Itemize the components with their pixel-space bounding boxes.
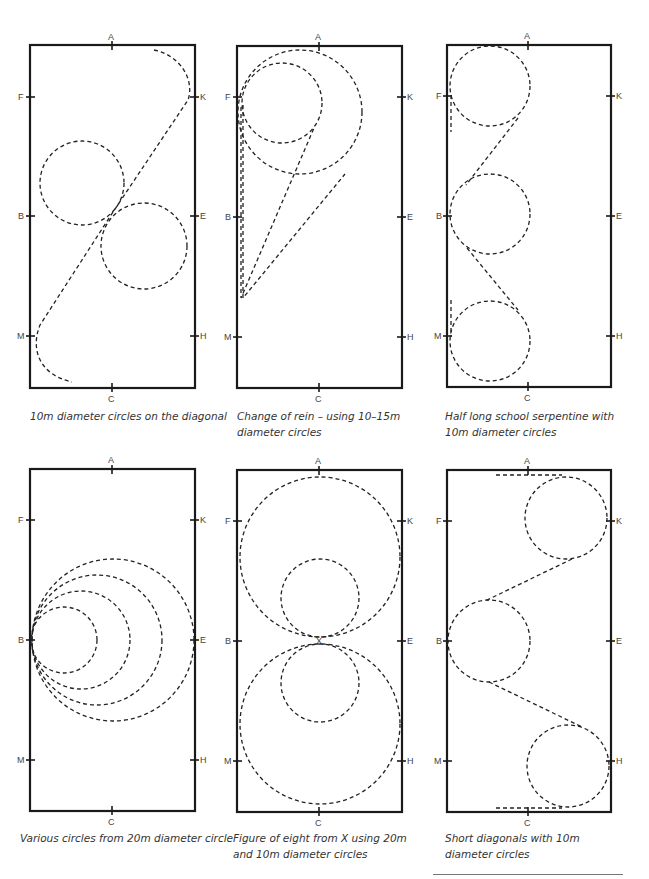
caption-half-serpentine: Half long school serpentine with 10m dia…	[445, 408, 625, 440]
footer-rule	[433, 874, 623, 875]
arena-various-circles: A C F B M K E H	[17, 455, 207, 827]
marker-c: C	[315, 394, 322, 404]
marker-a: A	[315, 456, 321, 466]
marker-b: B	[225, 636, 231, 646]
marker-e: E	[407, 212, 413, 222]
riding-path	[36, 50, 189, 382]
circle-10m	[525, 477, 607, 559]
caption-figure-of-eight: Figure of eight from X using 20m and 10m…	[233, 830, 423, 862]
circle-10m	[242, 63, 322, 143]
marker-f: F	[436, 516, 442, 526]
marker-b: B	[436, 636, 442, 646]
marker-h: H	[616, 756, 623, 766]
arena-diagonal-circles: A C F B M K E H	[17, 32, 207, 404]
circle-10m	[448, 600, 530, 682]
marker-c: C	[108, 817, 115, 827]
marker-f: F	[225, 516, 231, 526]
marker-a: A	[315, 32, 321, 42]
marker-h: H	[407, 756, 414, 766]
arena-outline	[447, 470, 611, 812]
marker-a: A	[108, 32, 114, 42]
marker-e: E	[616, 211, 622, 221]
arena-outline	[237, 46, 402, 388]
circle-20m-top	[240, 477, 400, 637]
circle-10m-bottom	[281, 644, 359, 722]
marker-m: M	[434, 331, 442, 341]
arena-change-of-rein: A C F B M K E H	[224, 32, 414, 404]
riding-path	[243, 105, 345, 298]
marker-b: B	[225, 212, 231, 222]
marker-h: H	[200, 331, 207, 341]
marker-k: K	[407, 516, 413, 526]
riding-path	[485, 559, 572, 601]
marker-m: M	[17, 331, 25, 341]
circle-15m	[238, 50, 362, 174]
riding-path	[489, 682, 582, 727]
marker-c: C	[524, 393, 531, 403]
marker-h: H	[616, 331, 623, 341]
circle-10m	[40, 141, 124, 225]
marker-a: A	[108, 455, 114, 465]
marker-k: K	[616, 516, 622, 526]
caption-various-circles: Various circles from 20m diameter circle	[20, 830, 235, 846]
marker-f: F	[18, 515, 24, 525]
marker-c: C	[108, 394, 115, 404]
marker-m: M	[224, 332, 232, 342]
marker-k: K	[200, 515, 206, 525]
circle-10m	[527, 725, 609, 807]
marker-e: E	[200, 211, 206, 221]
marker-f: F	[225, 92, 231, 102]
arena-short-diagonals: A C F B M K E H	[434, 456, 623, 828]
marker-h: H	[200, 755, 207, 765]
marker-h: H	[407, 332, 414, 342]
circle-small	[31, 607, 97, 673]
circle-medium	[32, 591, 130, 689]
circle-10m	[450, 46, 530, 126]
circle-10m-top	[281, 559, 359, 637]
marker-f: F	[436, 91, 442, 101]
circle-10m	[450, 301, 530, 381]
arena-outline	[30, 469, 195, 811]
marker-e: E	[407, 636, 413, 646]
marker-a: A	[524, 31, 530, 41]
marker-c: C	[315, 818, 322, 828]
caption-short-diagonals: Short diagonals with 10m diameter circle…	[445, 830, 615, 862]
marker-k: K	[616, 91, 622, 101]
marker-k: K	[200, 92, 206, 102]
marker-m: M	[224, 756, 232, 766]
arena-outline	[30, 45, 195, 388]
caption-diagonal-circles: 10m diameter circles on the diagonal	[30, 408, 230, 424]
marker-k: K	[407, 92, 413, 102]
marker-b: B	[436, 211, 442, 221]
arena-figure-of-eight: A C F B M K E H X	[224, 456, 414, 828]
arena-half-serpentine: A C F B M K E H	[434, 31, 623, 403]
circle-20m	[32, 559, 194, 721]
riding-path	[466, 118, 518, 185]
marker-a: A	[524, 456, 530, 466]
marker-c: C	[524, 818, 531, 828]
circle-20m-bottom	[240, 644, 400, 804]
marker-m: M	[434, 756, 442, 766]
caption-change-of-rein: Change of rein – using 10–15m diameter c…	[237, 408, 417, 440]
circle-10m	[101, 203, 187, 289]
circle-10m	[450, 174, 530, 254]
marker-b: B	[18, 211, 24, 221]
marker-f: F	[18, 92, 24, 102]
marker-e: E	[616, 636, 622, 646]
marker-b: B	[18, 635, 24, 645]
marker-e: E	[200, 635, 206, 645]
marker-m: M	[17, 755, 25, 765]
riding-path	[241, 107, 314, 298]
